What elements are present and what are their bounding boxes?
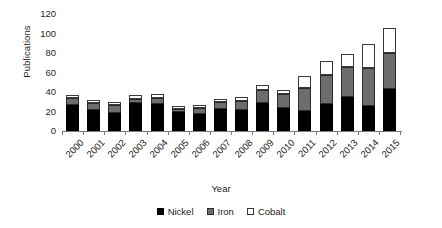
x-tick-mark	[62, 131, 63, 135]
bar-segment-iron[interactable]	[256, 90, 269, 103]
x-tick-mark	[337, 131, 338, 135]
bar-segment-nickel[interactable]	[298, 111, 311, 131]
bar-segment-nickel[interactable]	[256, 103, 269, 131]
bar-segment-cobalt[interactable]	[193, 105, 206, 108]
y-tick-label: 20	[10, 107, 56, 116]
bar-segment-iron[interactable]	[129, 99, 142, 103]
bar-segment-nickel[interactable]	[362, 106, 375, 131]
bar-stack[interactable]	[277, 14, 290, 131]
bar-group	[62, 14, 400, 131]
bar-segment-nickel[interactable]	[193, 114, 206, 131]
bar-segment-nickel[interactable]	[341, 97, 354, 131]
bar-stack[interactable]	[151, 14, 164, 131]
y-tick-label: 60	[10, 68, 56, 77]
legend-item-label: Nickel	[168, 206, 194, 217]
bar-segment-cobalt[interactable]	[66, 95, 79, 98]
bar-segment-cobalt[interactable]	[256, 85, 269, 90]
bar-stack[interactable]	[108, 14, 121, 131]
chart-legend: NickelIronCobalt	[0, 206, 442, 217]
x-tick-mark	[147, 131, 148, 135]
bar-segment-nickel[interactable]	[129, 103, 142, 131]
bar-segment-iron[interactable]	[235, 101, 248, 110]
legend-item-label: Iron	[218, 206, 234, 217]
bar-segment-iron[interactable]	[214, 102, 227, 109]
plot-area	[62, 14, 400, 131]
cobalt-swatch	[247, 208, 254, 215]
bar-segment-nickel[interactable]	[172, 112, 185, 131]
x-tick-mark	[168, 131, 169, 135]
bar-segment-cobalt[interactable]	[277, 90, 290, 94]
legend-item[interactable]: Cobalt	[247, 206, 285, 217]
x-tick-mark	[189, 131, 190, 135]
nickel-swatch	[157, 208, 164, 215]
y-tick-label: 0	[10, 126, 56, 135]
bar-stack[interactable]	[362, 14, 375, 131]
x-axis-line	[62, 131, 402, 132]
bar-segment-cobalt[interactable]	[214, 99, 227, 102]
publications-by-year-chart: Publications 120100806040200 20002001200…	[0, 0, 442, 228]
legend-item[interactable]: Nickel	[157, 206, 194, 217]
bar-segment-cobalt[interactable]	[87, 100, 100, 103]
bar-segment-cobalt[interactable]	[383, 28, 396, 53]
bar-segment-cobalt[interactable]	[108, 102, 121, 105]
bar-stack[interactable]	[129, 14, 142, 131]
bar-segment-iron[interactable]	[383, 53, 396, 89]
bar-segment-iron[interactable]	[193, 108, 206, 115]
bar-stack[interactable]	[383, 14, 396, 131]
bar-stack[interactable]	[235, 14, 248, 131]
x-tick-mark	[210, 131, 211, 135]
bar-stack[interactable]	[172, 14, 185, 131]
bar-segment-nickel[interactable]	[235, 110, 248, 131]
bar-segment-nickel[interactable]	[151, 104, 164, 131]
iron-swatch	[207, 208, 214, 215]
bar-segment-iron[interactable]	[87, 103, 100, 110]
bar-segment-cobalt[interactable]	[298, 76, 311, 88]
x-tick-mark	[379, 131, 380, 135]
bar-segment-iron[interactable]	[66, 98, 79, 105]
bar-segment-iron[interactable]	[108, 105, 121, 114]
bar-segment-iron[interactable]	[277, 94, 290, 108]
legend-item-label: Cobalt	[258, 206, 285, 217]
bar-segment-nickel[interactable]	[214, 109, 227, 131]
bar-segment-nickel[interactable]	[108, 113, 121, 131]
y-tick-label: 120	[10, 9, 56, 18]
x-tick-mark	[231, 131, 232, 135]
x-tick-mark	[104, 131, 105, 135]
x-tick-mark	[125, 131, 126, 135]
bar-segment-cobalt[interactable]	[129, 95, 142, 99]
bar-segment-iron[interactable]	[298, 88, 311, 110]
y-tick-label: 100	[10, 29, 56, 38]
bar-stack[interactable]	[214, 14, 227, 131]
bar-segment-cobalt[interactable]	[320, 61, 333, 76]
bar-stack[interactable]	[341, 14, 354, 131]
bar-segment-nickel[interactable]	[320, 104, 333, 131]
x-tick-mark	[358, 131, 359, 135]
y-tick-label: 80	[10, 48, 56, 57]
bar-stack[interactable]	[66, 14, 79, 131]
bar-stack[interactable]	[256, 14, 269, 131]
legend-item[interactable]: Iron	[207, 206, 234, 217]
x-tick-mark	[273, 131, 274, 135]
bar-segment-iron[interactable]	[151, 98, 164, 104]
bar-segment-cobalt[interactable]	[341, 54, 354, 67]
x-tick-mark	[252, 131, 253, 135]
bar-segment-cobalt[interactable]	[362, 44, 375, 67]
bar-stack[interactable]	[298, 14, 311, 131]
bar-stack[interactable]	[320, 14, 333, 131]
x-tick-mark	[400, 131, 401, 135]
bar-segment-nickel[interactable]	[277, 108, 290, 131]
bar-segment-nickel[interactable]	[383, 89, 396, 131]
bar-segment-cobalt[interactable]	[235, 97, 248, 101]
y-tick-label: 40	[10, 87, 56, 96]
bar-stack[interactable]	[193, 14, 206, 131]
bar-segment-cobalt[interactable]	[151, 94, 164, 98]
bar-segment-nickel[interactable]	[66, 105, 79, 131]
bar-segment-nickel[interactable]	[87, 110, 100, 131]
bar-segment-iron[interactable]	[341, 67, 354, 97]
bar-segment-iron[interactable]	[172, 109, 185, 113]
bar-stack[interactable]	[87, 14, 100, 131]
bar-segment-iron[interactable]	[320, 75, 333, 103]
x-tick-mark	[316, 131, 317, 135]
bar-segment-iron[interactable]	[362, 68, 375, 106]
bar-segment-cobalt[interactable]	[172, 106, 185, 109]
